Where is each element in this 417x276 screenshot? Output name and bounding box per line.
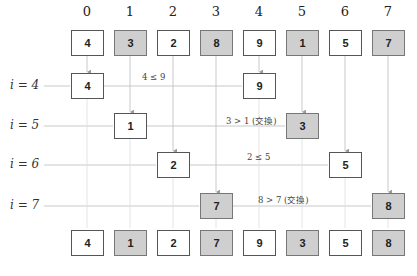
initial-cell-3: 8 xyxy=(200,30,233,56)
comparison-i7: 8 > 7 (交換) xyxy=(258,193,309,205)
index-label-1: 1 xyxy=(120,4,140,19)
index-label-6: 6 xyxy=(335,4,355,19)
final-cell-3: 7 xyxy=(200,230,233,256)
step-i7-right: 8 xyxy=(372,193,405,219)
step-label-i4: i = 4 xyxy=(10,78,39,92)
index-label-7: 7 xyxy=(378,4,398,19)
step-i4-left: 4 xyxy=(71,73,104,99)
comparison-i6: 2 ≤ 5 xyxy=(247,152,270,162)
comparison-i4: 4 ≤ 9 xyxy=(142,72,165,82)
step-i4-right: 9 xyxy=(243,73,276,99)
step-label-i6: i = 6 xyxy=(10,157,39,171)
index-label-5: 5 xyxy=(292,4,312,19)
step-i7-left: 7 xyxy=(200,193,233,219)
comparison-i5: 3 > 1 (交換) xyxy=(226,114,277,126)
initial-cell-6: 5 xyxy=(329,30,362,56)
final-cell-2: 2 xyxy=(157,230,190,256)
step-label-i5: i = 5 xyxy=(10,118,39,132)
step-i5-left: 1 xyxy=(114,113,147,139)
final-cell-6: 5 xyxy=(329,230,362,256)
step-i6-right: 5 xyxy=(329,152,362,178)
index-label-0: 0 xyxy=(77,4,97,19)
final-cell-0: 4 xyxy=(71,230,104,256)
initial-cell-4: 9 xyxy=(243,30,276,56)
index-label-3: 3 xyxy=(206,4,226,19)
initial-cell-5: 1 xyxy=(286,30,319,56)
index-label-2: 2 xyxy=(163,4,183,19)
final-cell-1: 1 xyxy=(114,230,147,256)
final-cell-5: 3 xyxy=(286,230,319,256)
index-label-4: 4 xyxy=(249,4,269,19)
initial-cell-0: 4 xyxy=(71,30,104,56)
final-cell-4: 9 xyxy=(243,230,276,256)
step-i5-right: 3 xyxy=(286,113,319,139)
initial-cell-7: 7 xyxy=(372,30,405,56)
step-i6-left: 2 xyxy=(157,152,190,178)
initial-cell-2: 2 xyxy=(157,30,190,56)
final-cell-7: 8 xyxy=(372,230,405,256)
initial-cell-1: 3 xyxy=(114,30,147,56)
step-label-i7: i = 7 xyxy=(10,198,39,212)
